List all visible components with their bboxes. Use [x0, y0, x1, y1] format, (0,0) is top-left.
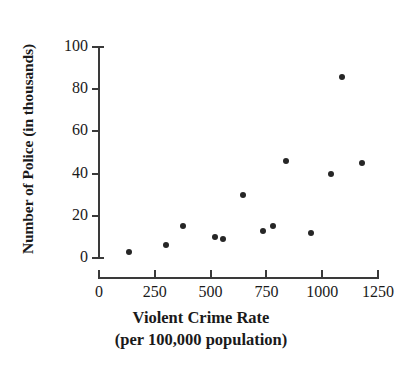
- y-axis-tick-label: 40: [28, 165, 88, 181]
- data-point: [339, 74, 345, 80]
- y-axis-tick-label: 60: [28, 122, 88, 138]
- y-axis-tick: [92, 257, 99, 259]
- data-point: [126, 249, 132, 255]
- data-point: [220, 236, 226, 242]
- data-point: [283, 158, 289, 164]
- data-point: [180, 223, 186, 229]
- y-axis-tick-label: 0: [28, 249, 88, 265]
- x-axis-tick: [321, 270, 323, 279]
- x-axis-tick: [98, 270, 100, 279]
- y-axis-tick: [92, 173, 99, 175]
- y-axis-tick-label: 100: [28, 38, 88, 54]
- x-axis-tick: [377, 270, 379, 279]
- y-axis-tick-label: 20: [28, 207, 88, 223]
- x-axis-tick-label: 1250: [343, 283, 402, 300]
- y-axis-tick: [92, 88, 99, 90]
- x-axis-tick: [265, 270, 267, 279]
- data-point: [163, 242, 169, 248]
- scatter-plot-figure: Number of Police (in thousands) 02040608…: [0, 0, 402, 377]
- x-axis-subtitle: (per 100,000 population): [0, 329, 402, 350]
- data-point: [212, 234, 218, 240]
- y-axis-tick: [92, 130, 99, 132]
- plot-area: [99, 47, 378, 258]
- x-axis-title: Violent Crime Rate: [0, 307, 402, 328]
- y-axis-tick: [92, 46, 99, 48]
- y-axis-tick-label: 80: [28, 80, 88, 96]
- data-point: [328, 171, 334, 177]
- y-axis-tick: [92, 215, 99, 217]
- data-point: [240, 192, 246, 198]
- data-point: [308, 230, 314, 236]
- data-point: [359, 160, 365, 166]
- data-point: [260, 228, 266, 234]
- x-axis-line: [98, 277, 379, 279]
- x-axis-tick: [154, 270, 156, 279]
- data-point: [270, 223, 276, 229]
- x-axis-tick: [210, 270, 212, 279]
